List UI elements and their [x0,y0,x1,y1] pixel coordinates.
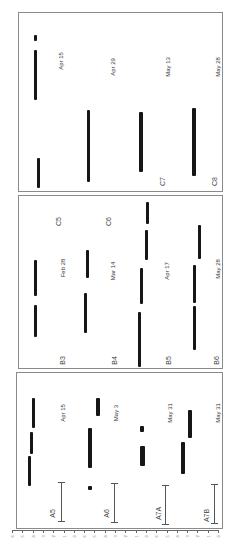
scale-bar [165,485,166,525]
ruler-tick-label: 4 [102,535,107,537]
ruler-tick-label: 4 [30,535,35,537]
ruler-tick [187,530,188,533]
date-label: May 31 [167,403,173,423]
ruler-tick [115,530,116,533]
ruler-tick [146,530,147,533]
ruler-tick [208,530,209,533]
ruler-tick [12,530,13,533]
ruler-tick-label: 0 [216,535,221,537]
date-label: May 13 [165,57,171,77]
ruler-tick-label: 5 [92,535,97,537]
ruler-tick-label: 1 [133,535,138,537]
band [34,50,37,100]
ruler-tick [22,530,23,533]
ruler-tick [33,530,34,533]
ruler-tick-label: 6 [82,535,87,537]
ruler-tick-label: 2 [51,535,56,537]
ruler-tick-label: 1 [61,535,66,537]
ruler-tick-label: 3 [41,535,46,537]
ruler-tick-label: 2 [195,535,200,537]
lane-code: A7B [203,509,210,522]
lane-code: B4 [111,356,118,365]
ruler-tick [197,530,198,533]
date-label: Feb 28 [60,259,66,278]
ruler-tick-label: 3 [185,535,190,537]
ruler-tick-label: 0 [144,535,149,537]
lane-code: A5 [49,509,56,518]
scale-bar [114,483,115,523]
lane-code: B6 [213,356,220,365]
ruler-tick [125,530,126,533]
ruler-tick [218,530,219,533]
ruler-tick-label: 2 [123,535,128,537]
ruler-tick-label: 6 [154,535,159,537]
scale-bar [214,484,215,524]
lane-code: C5 [55,217,62,226]
ruler: 654321065432106543210 [12,530,218,531]
date-label: Mar 14 [110,262,116,281]
ruler-tick-label: 6 [10,535,15,537]
ruler-tick [105,530,106,533]
ruler-tick [94,530,95,533]
lane-code: B3 [59,356,66,365]
ruler-tick-label: 3 [113,535,118,537]
lane-code: A7A [155,507,162,520]
ruler-tick [74,530,75,533]
ruler-tick [177,530,178,533]
ruler-tick [84,530,85,533]
ruler-tick-label: 5 [164,535,169,537]
ruler-tick [136,530,137,533]
date-label: Apr 15 [60,404,66,422]
date-label: May 3 [113,405,119,421]
panel-a [16,372,223,529]
date-label: Apr 15 [58,52,64,70]
ruler-tick-label: 5 [20,535,25,537]
date-label: Apr 17 [164,262,170,280]
lane-code: C8 [211,177,218,186]
ruler-tick-label: 4 [174,535,179,537]
date-label: May 28 [215,57,221,77]
ruler-tick-label: 0 [71,535,76,537]
date-label: May 31 [215,403,221,423]
scale-bar [61,482,62,522]
lane-code: B5 [165,356,172,365]
ruler-tick [156,530,157,533]
ruler-tick [53,530,54,533]
lane-code: C7 [159,177,166,186]
ruler-tick-label: 1 [205,535,210,537]
lane-code: A6 [103,509,110,518]
ruler-tick [167,530,168,533]
lane-code: C6 [105,217,112,226]
ruler-tick [64,530,65,533]
ruler-tick [43,530,44,533]
date-label: May 28 [215,259,221,279]
date-label: Apr 29 [110,58,116,76]
